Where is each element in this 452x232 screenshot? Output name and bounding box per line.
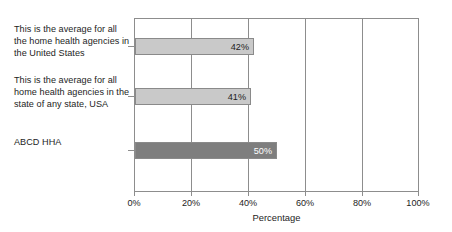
- x-axis-title: Percentage: [134, 212, 419, 224]
- x-axis-tick-100: [418, 192, 419, 196]
- x-axis-label-60: 60%: [285, 198, 325, 209]
- bar-value-state-average: 41%: [228, 92, 246, 102]
- x-axis-label-80: 80%: [342, 198, 382, 209]
- bar-value-us-average: 42%: [231, 42, 249, 52]
- category-label-abcd-hha: ABCD HHA: [14, 136, 130, 148]
- bar-chart: This is the average for all the home hea…: [0, 0, 452, 232]
- gridline-80: [362, 19, 363, 191]
- category-label-state-average: This is the average for all home health …: [14, 74, 130, 111]
- x-axis-tick-80: [362, 192, 363, 196]
- x-axis-label-40: 40%: [228, 198, 268, 209]
- gridline-60: [305, 19, 306, 191]
- x-axis-label-20: 20%: [171, 198, 211, 209]
- x-axis-label-100: 100%: [398, 198, 438, 209]
- bar-value-abcd-hha: 50%: [254, 146, 272, 156]
- x-axis-tick-40: [248, 192, 249, 196]
- plot-area: 42% 41% 50%: [134, 18, 419, 192]
- x-axis-tick-60: [305, 192, 306, 196]
- x-axis-tick-20: [191, 192, 192, 196]
- bar-state-average: 41%: [135, 88, 251, 105]
- bar-abcd-hha: 50%: [135, 142, 277, 159]
- category-axis-labels: This is the average for all the home hea…: [14, 18, 130, 192]
- category-label-us-average: This is the average for all the home hea…: [14, 23, 130, 60]
- bar-us-average: 42%: [135, 38, 254, 55]
- x-axis-label-0: 0%: [114, 198, 154, 209]
- x-axis-tick-0: [134, 192, 135, 196]
